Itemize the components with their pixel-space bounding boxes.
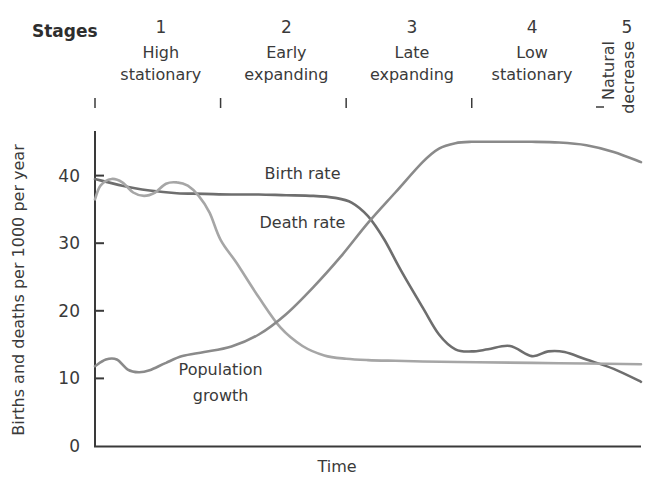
series-lines	[95, 142, 641, 382]
y-tick-label: 0	[69, 436, 80, 456]
stage-4: 4Lowstationary	[472, 17, 573, 108]
stages-header: 1Highstationary2Earlyexpanding3Lateexpan…	[95, 17, 638, 114]
y-axis-title: Births and deaths per 1000 per year	[9, 144, 28, 436]
stage-label: High	[142, 43, 179, 62]
stage-label: expanding	[370, 65, 454, 84]
stage-label: Low	[516, 43, 548, 62]
stages-title: Stages	[32, 21, 98, 41]
death-rate-line	[95, 179, 641, 364]
y-tick-label: 10	[58, 368, 80, 388]
stage-number: 5	[622, 17, 633, 37]
y-tick-label: 30	[58, 233, 80, 253]
stage-number: 4	[527, 17, 538, 37]
y-tick-label: 20	[58, 301, 80, 321]
stage-label: expanding	[244, 65, 328, 84]
population-growth-line	[95, 142, 641, 373]
stage-number: 2	[281, 17, 292, 37]
stage-number: 1	[155, 17, 166, 37]
y-tick-label: 40	[58, 166, 80, 186]
stage-3: 3Lateexpanding	[346, 17, 454, 108]
stage-label: Early	[266, 43, 306, 62]
x-axis-title: Time	[316, 457, 356, 476]
stage-5: 5Naturaldecrease	[596, 17, 638, 114]
stage-label: Late	[395, 43, 430, 62]
population-growth-label: growth	[193, 386, 249, 405]
population-growth-label: Population	[179, 360, 263, 379]
stage-label: decrease	[619, 41, 638, 114]
stage-1: 1Highstationary	[95, 17, 201, 108]
curve-labels: Birth rateDeath ratePopulationgrowth	[179, 164, 346, 405]
stage-2: 2Earlyexpanding	[221, 17, 329, 108]
birth-rate-label: Birth rate	[264, 164, 340, 183]
stage-label: stationary	[492, 65, 573, 84]
y-axis-ticks: 010203040	[58, 166, 104, 456]
death-rate-label: Death rate	[259, 213, 345, 232]
stage-label: Natural	[599, 41, 618, 100]
stage-label: stationary	[120, 65, 201, 84]
birth-rate-line	[95, 179, 641, 382]
demographic-transition-chart: Stages 1Highstationary2Earlyexpanding3La…	[0, 0, 663, 495]
stage-number: 3	[407, 17, 418, 37]
